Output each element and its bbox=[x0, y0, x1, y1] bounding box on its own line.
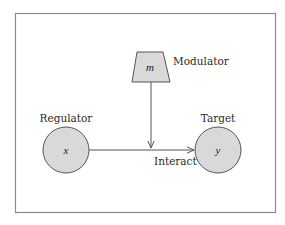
target-node: y bbox=[195, 127, 241, 173]
interact-label: Interact bbox=[154, 155, 198, 167]
modulator-symbol: m bbox=[146, 61, 154, 73]
target-symbol: y bbox=[215, 144, 221, 156]
regulator-symbol: x bbox=[63, 144, 69, 156]
modulator-node: m bbox=[132, 52, 170, 82]
regulation-diagram: m Modulator Interact Regulator x Target … bbox=[0, 0, 285, 225]
modulator-label: Modulator bbox=[173, 55, 230, 67]
regulator-node: x bbox=[43, 127, 89, 173]
target-label: Target bbox=[201, 112, 236, 124]
regulator-label: Regulator bbox=[40, 112, 94, 124]
